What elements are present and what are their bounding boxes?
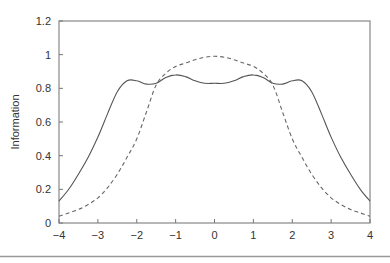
x-tick-label: −1	[169, 229, 182, 241]
x-tick-label: 3	[328, 229, 334, 241]
y-tick-label: 1.2	[36, 15, 51, 27]
chart: 00.20.40.60.811.2 −4−3−2−101234 Informat…	[0, 0, 390, 263]
plot-border	[59, 21, 370, 223]
x-tick-label: −3	[92, 229, 105, 241]
x-tick-label: 4	[367, 229, 373, 241]
series-dashed-line	[59, 56, 370, 216]
x-tick-label: 1	[250, 229, 256, 241]
x-tick-label: −4	[53, 229, 66, 241]
y-tick-label: 0.2	[36, 183, 51, 195]
x-tick-label: 2	[289, 229, 295, 241]
y-tick-label: 0.8	[36, 82, 51, 94]
y-tick-label: 0	[45, 217, 51, 229]
plot-frame	[59, 21, 370, 223]
y-tick-label: 0.6	[36, 116, 51, 128]
series-solid-line	[59, 75, 370, 201]
x-tick-label: 0	[211, 229, 217, 241]
y-tick-label: 1	[45, 49, 51, 61]
x-axis: −4−3−2−101234	[53, 219, 373, 241]
y-tick-label: 0.4	[36, 150, 51, 162]
plot-series	[59, 56, 370, 216]
y-axis-label: Information	[9, 94, 21, 149]
x-tick-label: −2	[130, 229, 143, 241]
